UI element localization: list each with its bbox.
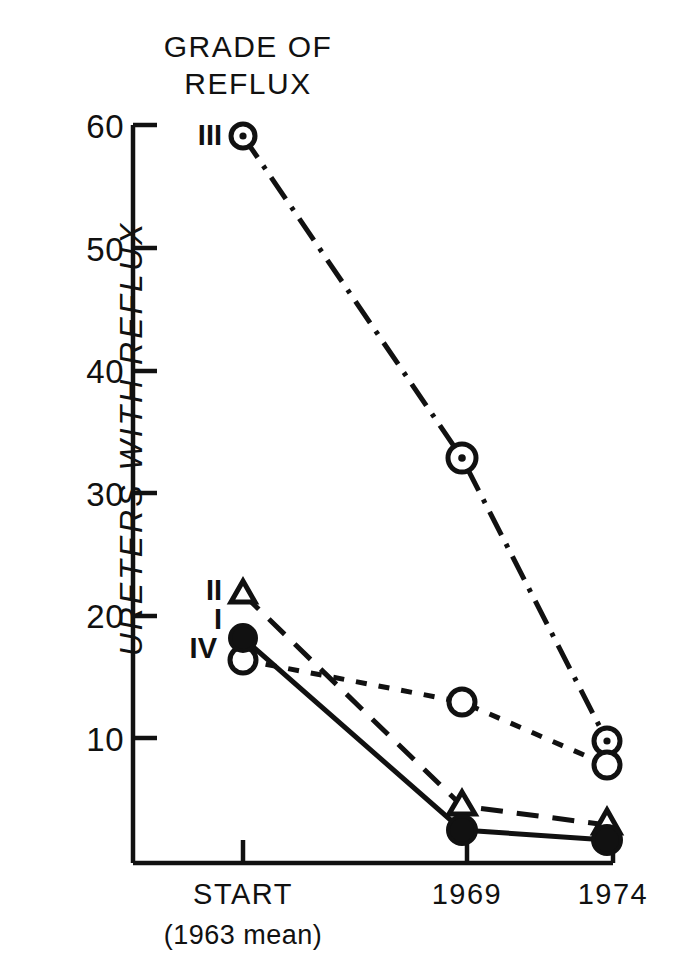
series-ii-line bbox=[243, 594, 607, 825]
series-iv bbox=[230, 647, 620, 778]
series-iv-markers bbox=[230, 647, 620, 778]
reflux-grade-line-chart: GRADE OF REFLUX URETERS WITH REFLUX 60 5… bbox=[0, 0, 676, 979]
data-point-i-start bbox=[230, 625, 256, 651]
data-point-i-1974 bbox=[593, 826, 621, 854]
data-point-ii-start bbox=[231, 581, 255, 602]
data-point-iv-1969 bbox=[449, 689, 475, 715]
data-point-i-1969 bbox=[448, 816, 476, 844]
plot-area bbox=[0, 0, 676, 979]
data-point-iii-1974-dot bbox=[603, 737, 610, 744]
data-point-iv-1974 bbox=[594, 752, 620, 778]
series-iii-markers bbox=[231, 124, 620, 754]
series-iv-line bbox=[243, 660, 607, 765]
data-point-iii-start-dot bbox=[239, 132, 246, 139]
data-point-iii-1969-dot bbox=[458, 454, 466, 462]
series-iii bbox=[231, 124, 620, 754]
